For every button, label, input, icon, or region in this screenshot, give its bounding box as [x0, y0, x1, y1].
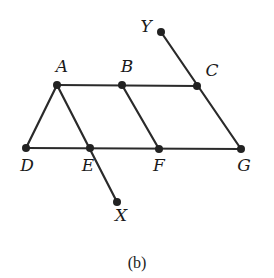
segment-yg — [161, 32, 241, 149]
point-y — [157, 28, 165, 36]
point-a — [53, 81, 61, 89]
figure-caption: (b) — [128, 254, 147, 272]
point-e — [86, 144, 94, 152]
point-label-g: G — [237, 155, 251, 175]
point-label-y: Y — [140, 16, 153, 36]
segment-ax — [57, 85, 117, 202]
point-d — [22, 144, 30, 152]
labeled-points: ABCDEFGXY — [19, 16, 251, 225]
point-label-c: C — [205, 60, 218, 80]
point-label-b: B — [120, 56, 134, 76]
point-label-a: A — [54, 56, 68, 76]
segment-ad — [26, 85, 57, 148]
segment-bf — [122, 85, 159, 149]
point-f — [155, 145, 163, 153]
segment-ac — [57, 85, 197, 86]
point-label-x: X — [113, 205, 128, 225]
point-c — [193, 82, 201, 90]
point-label-e: E — [81, 155, 95, 175]
point-label-d: D — [19, 155, 34, 175]
geometry-diagram: ABCDEFGXY (b) — [0, 0, 274, 278]
point-b — [118, 81, 126, 89]
point-label-f: F — [152, 155, 166, 175]
segment-dg — [26, 148, 241, 149]
point-g — [237, 145, 245, 153]
